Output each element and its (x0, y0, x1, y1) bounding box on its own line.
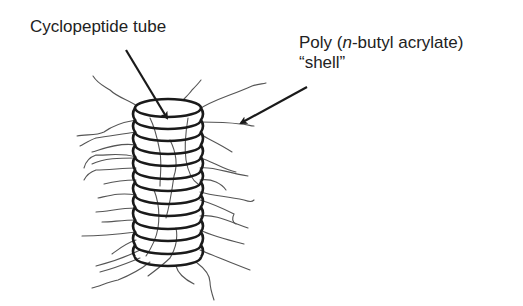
top-ring (135, 99, 201, 117)
nanotube-diagram (0, 0, 523, 306)
shell-pointer-arrow (241, 87, 307, 123)
cyclopeptide-rings (133, 99, 203, 266)
